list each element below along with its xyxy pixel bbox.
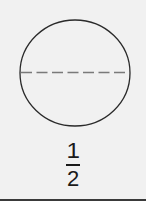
fraction-denominator: 2 <box>67 169 79 189</box>
bottom-border <box>0 199 146 201</box>
fraction-numerator: 1 <box>66 141 79 161</box>
fraction-label: 1 2 <box>0 141 146 189</box>
